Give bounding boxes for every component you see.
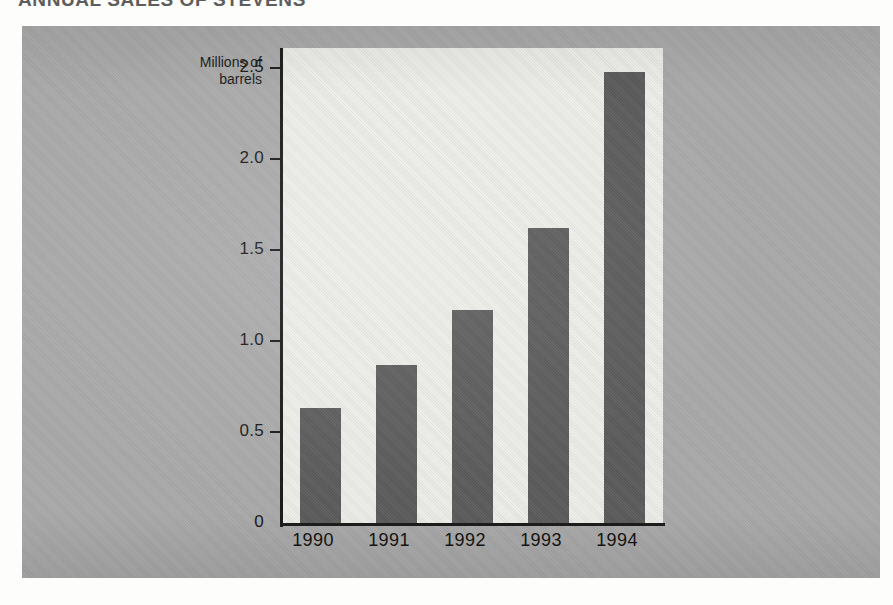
bar-1992 <box>452 310 493 523</box>
x-category-label-1993: 1993 <box>503 530 579 551</box>
page-bottom-margin <box>0 578 893 605</box>
y-tick-label: 1.5 <box>208 239 264 259</box>
y-tick-label-text: 1.0 <box>216 330 264 350</box>
y-tick-label: 2.5 <box>208 57 264 77</box>
x-axis-line <box>280 523 665 526</box>
scanned-page: ANNUAL SALES OF STEVENS Millions of barr… <box>0 0 893 605</box>
bar-1994 <box>604 72 645 523</box>
x-category-label-1990: 1990 <box>275 530 351 551</box>
y-tick-label-text: 0 <box>216 512 264 532</box>
y-tick-label: 0 <box>208 512 264 532</box>
y-tick-label-text: 0.5 <box>216 421 264 441</box>
y-tick-label: 1.0 <box>208 330 264 350</box>
y-tick-label-text: 2.0 <box>216 148 264 168</box>
chart-photo-panel: Millions of barrels 00.51.01.52.02.5 199… <box>22 26 880 578</box>
bar-1993 <box>528 228 569 523</box>
y-tick-mark <box>270 158 280 160</box>
y-tick-label: 2.0 <box>208 148 264 168</box>
bar-chart: Millions of barrels 00.51.01.52.02.5 199… <box>22 26 880 578</box>
page-heading-clipped: ANNUAL SALES OF STEVENS <box>0 0 893 13</box>
y-tick-label-text: 2.5 <box>216 57 264 77</box>
y-tick-mark <box>270 67 280 69</box>
x-category-label-1994: 1994 <box>579 530 655 551</box>
bar-1991 <box>376 365 417 523</box>
bar-1990 <box>300 408 341 523</box>
x-category-label-1991: 1991 <box>351 530 427 551</box>
y-tick-mark <box>270 249 280 251</box>
y-tick-label: 0.5 <box>208 421 264 441</box>
x-category-label-1992: 1992 <box>427 530 503 551</box>
page-heading-text: ANNUAL SALES OF STEVENS <box>18 0 306 11</box>
y-tick-label-text: 1.5 <box>216 239 264 259</box>
y-tick-mark <box>270 340 280 342</box>
y-tick-mark <box>270 431 280 433</box>
y-axis-line <box>280 48 283 527</box>
